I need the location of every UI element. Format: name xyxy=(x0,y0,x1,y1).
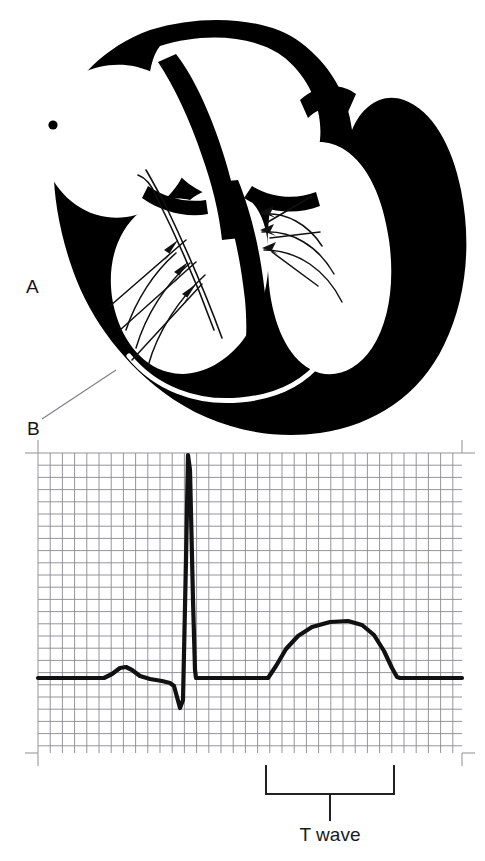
ecg-grid xyxy=(38,453,462,753)
panel-label-a: A xyxy=(26,276,39,298)
heart-cross-section-illustration xyxy=(0,0,485,445)
ecg-waveform-trace xyxy=(38,455,462,708)
sa-node-marker xyxy=(48,120,57,129)
ecg-panel xyxy=(0,440,485,861)
ecg-tracing-svg xyxy=(0,440,485,861)
label-b-leader-line xyxy=(42,370,116,419)
t-wave-bracket xyxy=(266,766,394,820)
panel-label-b: B xyxy=(27,418,40,440)
heart-diagram-panel xyxy=(0,0,485,445)
t-wave-label: T wave xyxy=(266,824,394,846)
figure-root: A B T wave xyxy=(0,0,485,861)
ecg-corner-ticks xyxy=(25,440,475,766)
